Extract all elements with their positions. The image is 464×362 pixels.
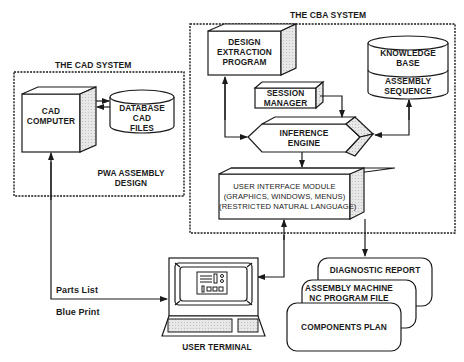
assembly-sequence-label: ASSEMBLY SEQUENCE [368,76,448,96]
user-interface-label: USER INTERFACE MODULE (GRAPHICS, WINDOWS… [219,182,350,212]
cad-computer-label: CAD COMPUTER [22,106,80,126]
inference-engine-label: INFERENCE ENGINE [262,128,346,148]
database-label: DATABASE CAD FILES [110,103,174,133]
knowledge-base-label: KNOWLEDGE BASE [368,48,448,68]
session-manager-label: SESSION MANAGER [255,88,316,108]
parts-list-label: Parts List [56,285,98,295]
nc-program-label: ASSEMBLY MACHINE NC PROGRAM FILE [292,283,406,303]
diagnostic-report-label: DIAGNOSTIC REPORT [318,265,432,275]
components-plan-label: COMPONENTS PLAN [287,322,401,332]
user-terminal-icon [162,258,265,336]
design-extraction-label: DESIGN EXTRACTION PROGRAM [208,37,281,67]
user-terminal-label: USER TERMINAL [172,342,262,352]
cad-db-arrows [96,101,110,107]
cba-system-title: THE CBA SYSTEM [290,10,366,20]
ui-terminal-connector [258,220,284,277]
pwa-assembly-caption: PWA ASSEMBLY DESIGN [86,168,176,188]
blue-print-label: Blue Print [56,307,100,317]
cad-system-title: THE CAD SYSTEM [55,60,132,70]
